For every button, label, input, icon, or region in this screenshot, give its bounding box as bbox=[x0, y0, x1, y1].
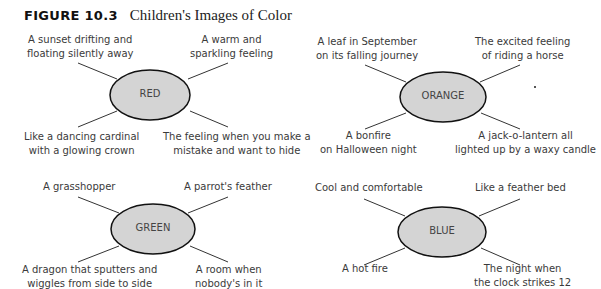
label-line: A grasshopper bbox=[43, 180, 115, 194]
red-bottom-right-label: The feeling when you make a mistake and … bbox=[163, 130, 311, 158]
label-line: The excited feeling bbox=[475, 35, 570, 49]
label-line: sparkling feeling bbox=[190, 47, 273, 61]
label-line: The night when bbox=[474, 262, 571, 276]
green-label: GREEN bbox=[113, 222, 193, 233]
orange-top-left-label: A leaf in September on its falling journ… bbox=[316, 35, 418, 63]
green-bottom-right-label: A room when nobody's in it bbox=[195, 263, 262, 289]
green-bottom-left-label: A dragon that sputters and wiggles from … bbox=[22, 263, 157, 289]
label-line: lighted up by a waxy candle bbox=[455, 143, 596, 157]
label-line: A sunset drifting and bbox=[27, 33, 134, 47]
red-label: RED bbox=[110, 88, 190, 99]
label-line: A leaf in September bbox=[316, 35, 418, 49]
label-line: on its falling journey bbox=[316, 49, 418, 63]
green-top-right-label: A parrot's feather bbox=[184, 180, 272, 194]
stray-mark bbox=[534, 86, 536, 88]
blue-top-left-label: Cool and comfortable bbox=[315, 181, 423, 195]
label-line: The feeling when you make a bbox=[163, 130, 311, 144]
label-line: A hot fire bbox=[342, 262, 388, 276]
label-line: A warm and bbox=[190, 33, 273, 47]
label-line: A jack-o-lantern all bbox=[455, 129, 596, 143]
label-line: Like a dancing cardinal bbox=[24, 130, 139, 144]
blue-bottom-right-label: The night when the clock strikes 12 bbox=[474, 262, 571, 289]
label-line: A bonfire bbox=[320, 129, 417, 143]
orange-label: ORANGE bbox=[403, 90, 483, 101]
label-line: A room when bbox=[195, 263, 262, 277]
orange-bottom-left-label: A bonfire on Halloween night bbox=[320, 129, 417, 157]
green-top-left-label: A grasshopper bbox=[43, 180, 115, 194]
red-top-right-label: A warm and sparkling feeling bbox=[190, 33, 273, 61]
blue-label: BLUE bbox=[402, 225, 482, 236]
label-line: with a glowing crown bbox=[24, 144, 139, 158]
label-line: the clock strikes 12 bbox=[474, 276, 571, 289]
red-top-left-label: A sunset drifting and floating silently … bbox=[27, 33, 134, 61]
label-line: mistake and want to hide bbox=[163, 144, 311, 158]
label-line: A parrot's feather bbox=[184, 180, 272, 194]
label-line: of riding a horse bbox=[475, 49, 570, 63]
orange-bottom-right-label: A jack-o-lantern all lighted up by a wax… bbox=[455, 129, 596, 157]
blue-top-right-label: Like a feather bed bbox=[475, 181, 566, 195]
label-line: on Halloween night bbox=[320, 143, 417, 157]
orange-top-right-label: The excited feeling of riding a horse bbox=[475, 35, 570, 63]
label-line: nobody's in it bbox=[195, 277, 262, 289]
label-line: floating silently away bbox=[27, 47, 134, 61]
label-line: wiggles from side to side bbox=[22, 277, 157, 289]
blue-bottom-left-label: A hot fire bbox=[342, 262, 388, 276]
red-bottom-left-label: Like a dancing cardinal with a glowing c… bbox=[24, 130, 139, 158]
label-line: Cool and comfortable bbox=[315, 181, 423, 195]
label-line: A dragon that sputters and bbox=[22, 263, 157, 277]
label-line: Like a feather bed bbox=[475, 181, 566, 195]
